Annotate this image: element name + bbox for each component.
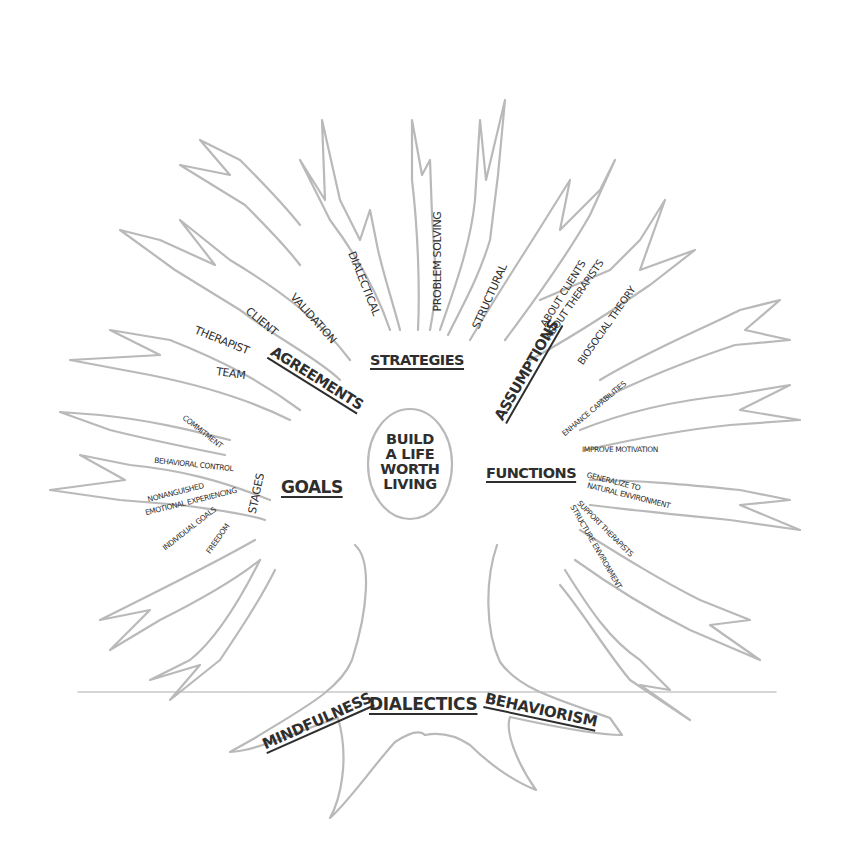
center-line-3: WORTH <box>372 462 448 477</box>
root-dialectics: DIALECTICS <box>369 694 477 714</box>
center-line-1: BUILD <box>372 432 448 447</box>
tree-outline <box>0 0 854 847</box>
center-goal: BUILD A LIFE WORTH LIVING <box>372 432 448 492</box>
trunk-right <box>425 545 622 790</box>
function-improve-motivation: IMPROVE MOTIVATION <box>582 446 658 454</box>
functions-heading: FUNCTIONS <box>486 465 576 481</box>
goals-heading: GOALS <box>281 477 343 497</box>
strategies-heading: STRATEGIES <box>370 352 464 368</box>
center-line-4: LIVING <box>372 477 448 492</box>
center-line-2: A LIFE <box>372 447 448 462</box>
trunk-left <box>230 545 425 818</box>
strategy-problem-solving: PROBLEM SOLVING <box>431 211 444 311</box>
